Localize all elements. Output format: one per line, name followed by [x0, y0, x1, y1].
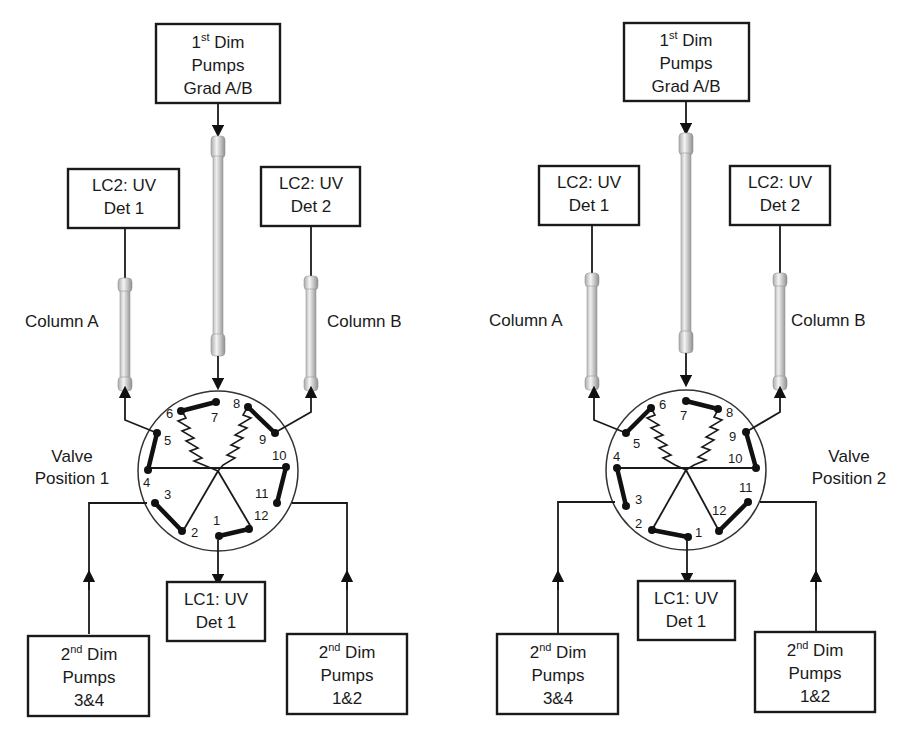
column-b — [304, 276, 318, 391]
svg-text:2: 2 — [635, 516, 642, 531]
svg-text:Det 1: Det 1 — [104, 199, 145, 218]
svg-text:Det 1: Det 1 — [569, 196, 610, 215]
svg-text:Det 2: Det 2 — [291, 197, 332, 216]
lc2-uv-det1-box: LC2: UV Det 1 — [539, 166, 639, 225]
second-dim-pumps-34-box: 2nd Dim Pumps 3&4 — [497, 634, 618, 714]
svg-text:Det 2: Det 2 — [760, 196, 801, 215]
svg-text:Grad A/B: Grad A/B — [652, 77, 721, 96]
svg-text:1st Dim: 1st Dim — [660, 29, 713, 50]
svg-text:1&2: 1&2 — [800, 687, 830, 706]
svg-text:LC2: UV: LC2: UV — [279, 174, 344, 193]
svg-text:LC1: UV: LC1: UV — [184, 590, 249, 609]
svg-text:5: 5 — [633, 436, 640, 451]
svg-text:Pumps: Pumps — [532, 666, 585, 685]
column-b-label: Column B — [791, 311, 866, 330]
first-dim-column — [679, 133, 693, 353]
svg-text:12: 12 — [712, 503, 726, 518]
svg-text:LC1: UV: LC1: UV — [654, 589, 719, 608]
svg-text:Pumps: Pumps — [789, 664, 842, 683]
svg-text:1: 1 — [213, 513, 220, 528]
svg-text:7: 7 — [211, 410, 218, 425]
svg-text:2nd Dim: 2nd Dim — [787, 639, 844, 660]
svg-text:10: 10 — [728, 451, 742, 466]
pump12-line — [292, 503, 347, 633]
svg-text:Det 1: Det 1 — [196, 613, 237, 632]
column-a — [118, 278, 132, 391]
column-a-label: Column A — [25, 312, 99, 331]
first-dim-column — [211, 136, 225, 356]
svg-text:Pumps: Pumps — [192, 56, 245, 75]
svg-text:4: 4 — [143, 475, 150, 490]
column-b-label: Column B — [327, 312, 402, 331]
svg-text:11: 11 — [255, 486, 269, 501]
lc2-uv-det1-box: LC2: UV Det 1 — [68, 169, 179, 228]
svg-text:Pumps: Pumps — [321, 666, 374, 685]
svg-text:6: 6 — [166, 406, 173, 421]
pump12-line — [760, 502, 816, 632]
svg-text:5: 5 — [164, 433, 171, 448]
svg-text:7: 7 — [680, 408, 687, 423]
diagram-position-2: 1st Dim Pumps Grad A/B LC2: UV Det 1 Col… — [489, 23, 886, 714]
svg-text:2: 2 — [191, 525, 198, 540]
column-a-label: Column A — [489, 311, 563, 330]
column-b — [773, 273, 787, 390]
svg-text:12: 12 — [254, 508, 268, 523]
svg-text:2nd Dim: 2nd Dim — [530, 641, 587, 662]
pump34-line — [89, 503, 147, 634]
svg-text:2nd Dim: 2nd Dim — [61, 643, 118, 664]
column-a — [585, 273, 599, 390]
svg-text:Pumps: Pumps — [660, 54, 713, 73]
svg-text:3: 3 — [164, 487, 171, 502]
valve-position-label: Position 1 — [35, 469, 110, 488]
lc1-uv-det1-box: LC1: UV Det 1 — [167, 582, 265, 641]
svg-text:3&4: 3&4 — [543, 689, 573, 708]
second-dim-pumps-12-box: 2nd Dim Pumps 1&2 — [287, 634, 407, 714]
svg-text:10: 10 — [272, 448, 286, 463]
lc1-uv-det1-box: LC1: UV Det 1 — [638, 581, 735, 640]
svg-text:2nd Dim: 2nd Dim — [319, 641, 376, 662]
pump34-line — [558, 502, 615, 634]
svg-text:6: 6 — [659, 397, 666, 412]
svg-text:LC2: UV: LC2: UV — [92, 176, 157, 195]
svg-text:11: 11 — [739, 480, 753, 495]
svg-text:Grad A/B: Grad A/B — [184, 79, 253, 98]
first-dim-pumps-box: 1st Dim Pumps Grad A/B — [624, 23, 749, 101]
svg-text:8: 8 — [233, 396, 240, 411]
svg-text:Det 1: Det 1 — [666, 612, 707, 631]
svg-text:LC2: UV: LC2: UV — [748, 173, 813, 192]
second-dim-pumps-34-box: 2nd Dim Pumps 3&4 — [28, 636, 149, 716]
valve-position-label: Valve — [828, 447, 869, 466]
lc2-uv-det2-box: LC2: UV Det 2 — [261, 167, 360, 226]
svg-text:3: 3 — [635, 492, 642, 507]
diagram-position-1: 1st Dim Pumps Grad A/B LC2: UV Det 1 Col… — [25, 24, 407, 716]
svg-text:4: 4 — [613, 449, 620, 464]
first-dim-pumps-box: 1st Dim Pumps Grad A/B — [156, 24, 280, 103]
svg-text:1: 1 — [695, 525, 702, 540]
svg-text:9: 9 — [259, 432, 266, 447]
svg-text:LC2: UV: LC2: UV — [557, 173, 622, 192]
svg-text:Pumps: Pumps — [63, 668, 116, 687]
second-dim-pumps-12-box: 2nd Dim Pumps 1&2 — [755, 632, 875, 712]
svg-text:8: 8 — [726, 405, 733, 420]
svg-text:1st Dim: 1st Dim — [192, 31, 245, 52]
valve-position-label: Valve — [51, 447, 92, 466]
valve-position-label: Position 2 — [812, 469, 887, 488]
svg-text:3&4: 3&4 — [74, 691, 104, 710]
svg-text:9: 9 — [729, 429, 736, 444]
valve-position-1: 1 2 3 4 5 6 7 8 9 10 11 12 — [125, 391, 311, 551]
svg-text:1&2: 1&2 — [332, 689, 362, 708]
valve-diagrams: 1st Dim Pumps Grad A/B LC2: UV Det 1 Col… — [0, 0, 906, 734]
lc2-uv-det2-box: LC2: UV Det 2 — [730, 166, 830, 225]
valve-position-2: 1 2 3 4 5 6 7 8 9 10 11 12 — [594, 390, 780, 550]
